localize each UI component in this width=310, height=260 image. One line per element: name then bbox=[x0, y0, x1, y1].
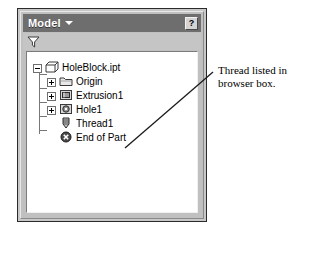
tree-node-holeblock[interactable]: HoleBlock.ipt bbox=[33, 61, 120, 75]
expand-toggle-icon[interactable] bbox=[47, 106, 56, 115]
collapse-toggle-icon[interactable] bbox=[33, 64, 42, 73]
tree-node-thread1[interactable]: Thread1 bbox=[47, 117, 113, 131]
tree-node-spacer bbox=[47, 134, 56, 143]
tree-node-label: Extrusion1 bbox=[76, 91, 123, 101]
expand-toggle-icon[interactable] bbox=[47, 78, 56, 87]
annotation-leader-line bbox=[125, 70, 215, 152]
tree-node-origin[interactable]: Origin bbox=[47, 75, 103, 89]
tree-node-end-of-part[interactable]: End of Part bbox=[47, 131, 126, 145]
tree-node-spacer bbox=[47, 120, 56, 129]
tree-connector-branch bbox=[39, 130, 47, 131]
expand-toggle-icon[interactable] bbox=[47, 92, 56, 101]
filter-funnel-icon[interactable] bbox=[27, 36, 40, 48]
annotation-callout: Thread listed in browser box. bbox=[218, 64, 308, 90]
browser-title-label: Model bbox=[28, 18, 61, 29]
tree-node-label: HoleBlock.ipt bbox=[62, 63, 120, 73]
tree-node-label: Hole1 bbox=[76, 105, 102, 115]
tree-node-hole1[interactable]: Hole1 bbox=[47, 103, 102, 117]
annotation-line-1: Thread listed in bbox=[218, 64, 308, 77]
tree-connector-branch bbox=[39, 116, 47, 117]
tree-connector-branch bbox=[39, 102, 47, 103]
tree-node-label: Thread1 bbox=[76, 119, 113, 129]
tree-node-label: End of Part bbox=[76, 133, 126, 143]
help-button[interactable]: ? bbox=[185, 17, 198, 30]
chevron-down-icon[interactable] bbox=[65, 21, 73, 25]
browser-filter-toolbar bbox=[23, 33, 201, 50]
annotation-line-2: browser box. bbox=[218, 77, 308, 90]
tree-connector-branch bbox=[39, 88, 47, 89]
tree-node-label: Origin bbox=[76, 77, 103, 87]
tree-connector-vertical bbox=[39, 68, 40, 134]
end-of-part-icon bbox=[59, 129, 73, 147]
browser-title-bar[interactable]: Model ? bbox=[23, 14, 201, 32]
